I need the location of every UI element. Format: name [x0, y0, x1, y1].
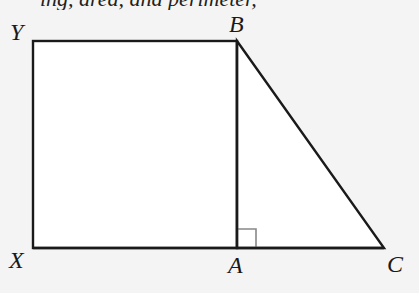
vertex-label-a: A: [228, 253, 243, 277]
vertex-label-x: X: [9, 248, 24, 272]
figure-svg: [0, 0, 419, 293]
vertex-label-y: Y: [10, 20, 23, 44]
rectangle-xyba: [33, 41, 237, 248]
vertex-label-c: C: [387, 252, 403, 276]
geometry-diagram: ing, area, and perimeter, Y B X A C: [0, 0, 419, 293]
vertex-label-b: B: [229, 12, 244, 36]
triangle-abc: [237, 41, 384, 248]
